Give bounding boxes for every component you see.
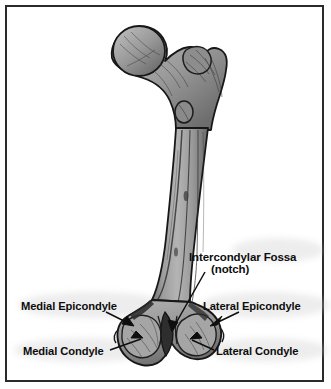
nutrient-foramen [184,191,189,201]
proximal-femur-group [112,26,227,130]
label-lateral-condyle: Lateral Condyle [216,345,298,357]
label-intercondylar-fossa-line2: (notch) [189,263,296,275]
label-lateral-epicondyle: Lateral Epicondyle [203,300,301,312]
femur-illustration [0,0,331,389]
label-intercondylar-fossa-line1: Intercondylar Fossa [189,251,296,263]
femur-diagram-figure: Intercondylar Fossa (notch) Medial Epico… [0,0,331,389]
label-medial-condyle: Medial Condyle [23,345,104,357]
label-medial-epicondyle: Medial Epicondyle [21,300,117,312]
femur-shaft-group [152,128,208,302]
shaft-marking [174,248,178,257]
label-intercondylar-fossa: Intercondylar Fossa (notch) [189,251,296,276]
